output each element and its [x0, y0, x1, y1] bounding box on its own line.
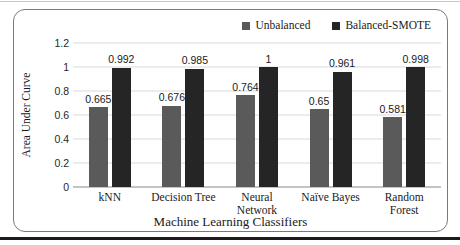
bar-value-label: 0.676 [159, 92, 185, 103]
bar-group: 0.5810.998 [367, 43, 441, 187]
legend: UnbalancedBalanced-SMOTE [242, 20, 431, 32]
bar-slot: 1 [259, 43, 278, 187]
bar-value-label: 0.65 [309, 96, 329, 107]
bar [162, 106, 181, 187]
bar-value-label: 0.992 [108, 54, 134, 65]
bar-slot: 0.65 [310, 43, 329, 187]
bar-value-label: 0.961 [329, 58, 355, 69]
figure-canvas: UnbalancedBalanced-SMOTE Area Under Curv… [0, 0, 460, 245]
x-axis-title: Machine Learning Classifiers [14, 214, 447, 230]
bar-value-label: 0.581 [380, 104, 406, 115]
plot-area: 0.6650.9920.6760.9850.76410.650.9610.581… [73, 43, 441, 187]
bar [310, 109, 329, 187]
bar-slot: 0.764 [236, 43, 255, 187]
legend-swatch-icon [242, 22, 250, 30]
y-tick-label: 1.2 [54, 38, 69, 49]
bar-group: 0.6760.985 [147, 43, 221, 187]
bar [406, 67, 425, 187]
bar [89, 107, 108, 187]
bar-slot: 0.581 [383, 43, 402, 187]
bar-value-label: 1 [266, 54, 272, 65]
bar-value-label: 0.764 [232, 82, 258, 93]
y-tick-label: 0 [63, 182, 69, 193]
bar [185, 69, 204, 187]
bar [112, 68, 131, 187]
bottom-divider [0, 237, 460, 240]
bar-slot: 0.676 [162, 43, 181, 187]
bar-value-label: 0.998 [403, 54, 429, 65]
legend-label: Balanced-SMOTE [345, 20, 431, 32]
bar-slot: 0.985 [185, 43, 204, 187]
bar [259, 67, 278, 187]
bar-group: 0.7641 [220, 43, 294, 187]
top-divider [0, 1, 460, 2]
bar-slot: 0.961 [333, 43, 352, 187]
bar-slot: 0.665 [89, 43, 108, 187]
bar-slot: 0.998 [406, 43, 425, 187]
bar-group: 0.6650.992 [73, 43, 147, 187]
legend-item: Balanced-SMOTE [332, 20, 431, 32]
bar [383, 117, 402, 187]
legend-label: Unbalanced [255, 20, 310, 32]
bar-value-label: 0.665 [85, 94, 111, 105]
legend-swatch-icon [332, 22, 340, 30]
bar [236, 95, 255, 187]
bar-value-label: 0.985 [182, 55, 208, 66]
legend-item: Unbalanced [242, 20, 310, 32]
bar-groups: 0.6650.9920.6760.9850.76410.650.9610.581… [73, 43, 441, 187]
y-tick-label: 0.8 [54, 86, 69, 97]
chart-panel: UnbalancedBalanced-SMOTE Area Under Curv… [13, 9, 448, 232]
y-tick-label: 0.6 [54, 110, 69, 121]
bar-group: 0.650.961 [294, 43, 368, 187]
y-axis-ticks: 00.20.40.60.811.2 [30, 43, 69, 187]
bar-slot: 0.992 [112, 43, 131, 187]
y-tick-label: 0.4 [54, 134, 69, 145]
y-tick-label: 1 [63, 62, 69, 73]
y-tick-label: 0.2 [54, 158, 69, 169]
bar [333, 72, 352, 187]
